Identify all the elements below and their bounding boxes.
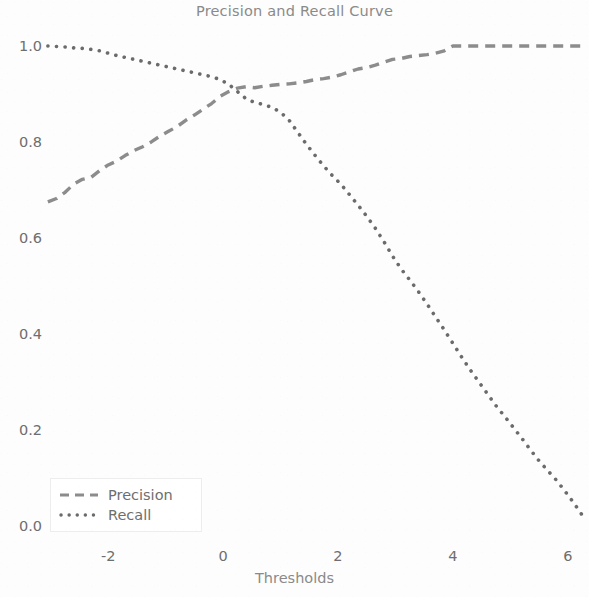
legend-label-recall: Recall — [108, 507, 151, 523]
x-tick-label: 0 — [218, 548, 227, 564]
legend-item-precision: Precision — [59, 485, 193, 505]
legend-swatch-precision — [59, 489, 99, 501]
y-tick-label: 0.0 — [2, 518, 42, 534]
x-tick-label: 2 — [333, 548, 342, 564]
x-tick-label: -2 — [101, 548, 115, 564]
x-tick-label: 4 — [448, 548, 457, 564]
x-axis-tick-labels: -20246 — [45, 548, 585, 568]
legend-swatch-recall — [59, 509, 99, 521]
chart-legend: Precision Recall — [50, 478, 202, 532]
x-tick-label: 6 — [563, 548, 572, 564]
legend-label-precision: Precision — [108, 487, 173, 503]
legend-item-recall: Recall — [59, 505, 193, 525]
y-tick-label: 0.2 — [2, 422, 42, 438]
x-axis-label: Thresholds — [0, 570, 589, 586]
y-tick-label: 0.4 — [2, 326, 42, 342]
chart-figure: Precision and Recall Curve 0.00.20.40.60… — [0, 0, 589, 597]
plot-area — [45, 22, 585, 540]
series-line-precision — [48, 46, 582, 202]
plot-svg — [45, 22, 585, 540]
y-tick-label: 0.6 — [2, 230, 42, 246]
y-tick-label: 1.0 — [2, 38, 42, 54]
y-axis-tick-labels: 0.00.20.40.60.81.0 — [0, 22, 42, 540]
series-line-recall — [48, 46, 582, 515]
y-tick-label: 0.8 — [2, 134, 42, 150]
chart-title: Precision and Recall Curve — [0, 3, 589, 19]
